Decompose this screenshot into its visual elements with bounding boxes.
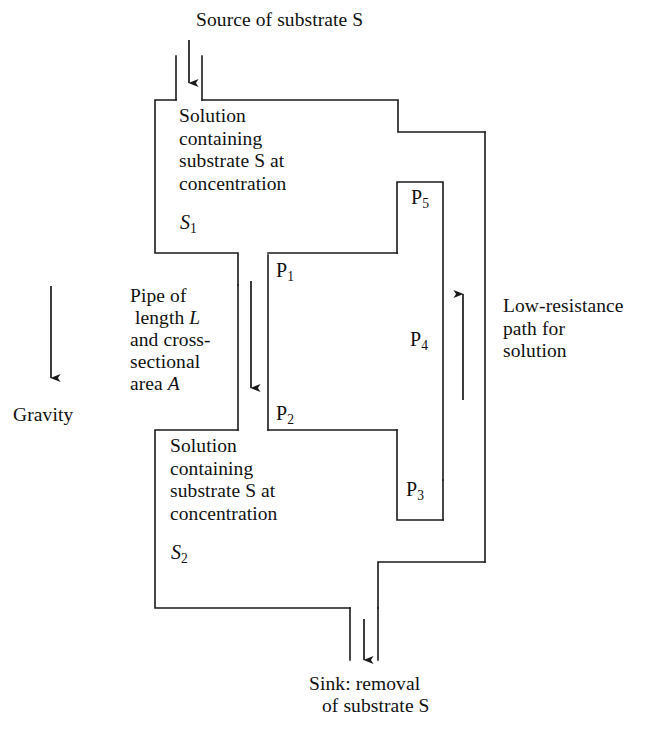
pipe-length-text: length — [135, 307, 189, 328]
pipe-description-line3: and cross- — [130, 329, 211, 352]
p3-subscript: 3 — [417, 488, 424, 503]
low-resistance-label: Low-resistance path for solution — [503, 295, 624, 363]
lower-concentration-symbol: S2 — [171, 541, 188, 567]
pressure-point-p4: P4 — [410, 328, 428, 354]
p4-base: P — [410, 328, 421, 350]
lower-chamber-label: Solution containing substrate S at conce… — [170, 435, 277, 525]
lower-concentration-base: S — [171, 541, 181, 563]
figure-root: Source of substrate S Solution containin… — [0, 0, 656, 738]
sink-label-line2: of substrate S — [322, 694, 430, 717]
pipe-area-text: area — [130, 373, 168, 394]
pipe-length-variable: L — [189, 307, 200, 328]
pressure-point-p2: P2 — [276, 402, 294, 428]
diagram-vessel-outline — [0, 0, 656, 738]
upper-concentration-base: S — [180, 211, 190, 233]
p1-base: P — [276, 259, 287, 281]
pressure-point-p3: P3 — [406, 478, 424, 504]
upper-concentration-subscript: 1 — [190, 221, 197, 236]
loop-bottom-step — [378, 562, 485, 608]
p3-base: P — [406, 478, 417, 500]
upper-concentration-symbol: S1 — [180, 211, 197, 237]
p4-subscript: 4 — [421, 338, 428, 353]
gravity-label: Gravity — [13, 403, 73, 426]
pipe-description-line5: area A — [130, 373, 180, 396]
pipe-description-line2: length L — [135, 307, 200, 330]
p3-inner-channel-wall — [397, 430, 443, 520]
source-label: Source of substrate S — [196, 8, 363, 31]
p2-subscript: 2 — [287, 412, 294, 427]
sink-label-line1: Sink: removal — [309, 672, 420, 695]
p1-subscript: 1 — [287, 269, 294, 284]
pipe-description-line4: sectional — [130, 351, 200, 374]
pressure-point-p1: P1 — [276, 259, 294, 285]
pipe-area-variable: A — [168, 373, 180, 394]
pipe-description-line1: Pipe of — [130, 285, 187, 308]
p5-base: P — [411, 186, 422, 208]
p5-subscript: 5 — [422, 196, 429, 211]
lower-concentration-subscript: 2 — [181, 551, 188, 566]
upper-chamber-label: Solution containing substrate S at conce… — [179, 105, 286, 195]
p2-base: P — [276, 402, 287, 424]
pressure-point-p5: P5 — [411, 186, 429, 212]
